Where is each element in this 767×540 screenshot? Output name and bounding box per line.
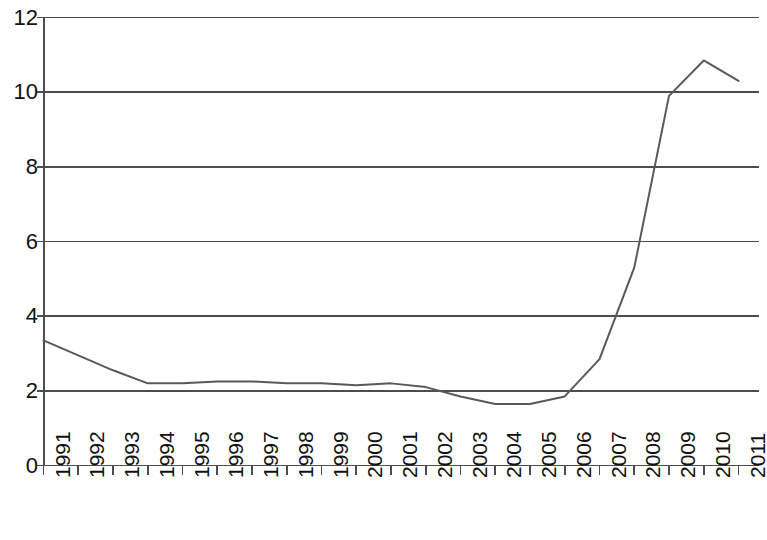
x-tick-label-1991: 1991 [52, 431, 73, 478]
x-tick-label-1994: 1994 [156, 431, 177, 478]
x-tick-label-1996: 1996 [225, 431, 246, 478]
x-tick-label-1999: 1999 [330, 431, 351, 478]
x-tick-label-1995: 1995 [191, 431, 212, 478]
x-tick-label-1998: 1998 [295, 431, 316, 478]
x-tick-label-2009: 2009 [677, 431, 698, 478]
x-axis-tick-labels: 1991199219931994199519961997199819992000… [0, 0, 767, 540]
x-tick-label-2003: 2003 [469, 431, 490, 478]
chart-container: 024681012 199119921993199419951996199719… [0, 0, 767, 540]
x-tick-label-1993: 1993 [121, 431, 142, 478]
x-tick-label-1992: 1992 [86, 431, 107, 478]
x-tick-label-2000: 2000 [364, 431, 385, 478]
x-tick-label-2001: 2001 [399, 431, 420, 478]
x-tick-label-2005: 2005 [538, 431, 559, 478]
x-tick-label-2002: 2002 [434, 431, 455, 478]
x-tick-label-2004: 2004 [503, 431, 524, 478]
x-tick-label-1997: 1997 [260, 431, 281, 478]
x-tick-label-2011: 2011 [747, 432, 767, 477]
x-tick-label-2010: 2010 [712, 431, 733, 478]
x-tick-label-2006: 2006 [573, 431, 594, 478]
x-tick-label-2007: 2007 [608, 431, 629, 478]
x-tick-label-2008: 2008 [642, 431, 663, 478]
